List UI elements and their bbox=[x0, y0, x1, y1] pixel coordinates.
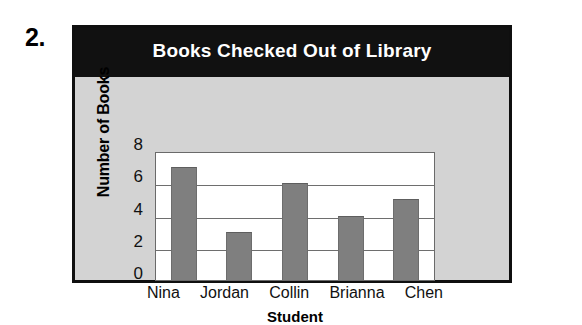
bar bbox=[393, 199, 419, 280]
x-axis-tick-label: Chen bbox=[405, 284, 443, 302]
chart-title-bar: Books Checked Out of Library bbox=[75, 28, 509, 77]
x-axis-tick-label: Brianna bbox=[329, 284, 384, 302]
x-axis-title: Student bbox=[155, 308, 435, 325]
x-axis-tick-label: Jordan bbox=[200, 284, 249, 302]
bar bbox=[226, 232, 252, 280]
x-axis-tick-label: Nina bbox=[147, 284, 180, 302]
plot-area bbox=[155, 152, 435, 281]
chart-figure: Books Checked Out of Library Number of B… bbox=[72, 25, 512, 283]
y-axis-tick-label: 0 bbox=[121, 265, 143, 282]
y-axis-tick-label: 4 bbox=[121, 201, 143, 218]
bar bbox=[338, 216, 364, 281]
bar-series bbox=[156, 153, 434, 280]
y-axis-tick-label: 6 bbox=[121, 168, 143, 185]
bar bbox=[282, 183, 308, 280]
chart-body: Number of Books 86420 NinaJordanCollinBr… bbox=[75, 77, 509, 280]
problem-number: 2. bbox=[25, 23, 45, 52]
y-axis-tick-label: 2 bbox=[121, 233, 143, 250]
y-axis-tick-label: 8 bbox=[121, 136, 143, 153]
chart-title: Books Checked Out of Library bbox=[75, 40, 509, 62]
bar bbox=[171, 167, 197, 280]
y-axis-tick-labels: 86420 bbox=[121, 145, 143, 274]
x-axis-tick-label: Collin bbox=[269, 284, 309, 302]
y-axis-title: Number of Books bbox=[95, 57, 113, 207]
x-axis-tick-labels: NinaJordanCollinBriannaChen bbox=[147, 284, 443, 302]
